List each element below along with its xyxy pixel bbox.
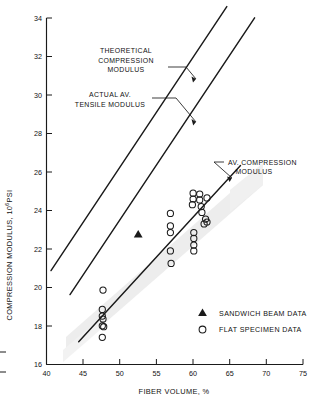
data-point	[100, 287, 106, 293]
data-point	[191, 248, 197, 254]
y-tick-label: 16	[34, 360, 42, 369]
chart-svg: 34 32 30 28 26 24 22 20 18 16 40 45 50 5…	[0, 0, 311, 402]
data-point	[167, 223, 173, 229]
x-tick-label: 75	[299, 369, 307, 378]
annotation-line: MODULUS	[236, 168, 273, 175]
data-point	[197, 191, 203, 197]
data-point	[167, 230, 173, 236]
annotation-line: TENSILE MODULUS	[75, 101, 145, 108]
y-tick-label: 34	[34, 14, 42, 23]
y-axis-title-main: COMPRESSION MODULUS, 10	[5, 206, 14, 321]
x-tick-label: 50	[116, 369, 124, 378]
annotation-line: THEORETICAL	[100, 47, 152, 54]
legend-marker-filled-triangle	[198, 308, 207, 316]
x-axis-ticks	[47, 359, 304, 365]
y-tick-label: 18	[34, 322, 42, 331]
x-axis-tick-labels: 40 45 50 55 60 65 70 75	[43, 369, 308, 378]
y-axis-title-unit: PSI	[5, 189, 14, 202]
annotation-line: COMPRESSION	[98, 57, 154, 64]
data-point	[199, 209, 205, 215]
y-tick-label: 32	[34, 52, 42, 61]
data-point	[190, 190, 196, 196]
x-tick-label: 40	[43, 369, 51, 378]
legend-label-flat-specimen-data: FLAT SPECIMEN DATA	[219, 326, 302, 334]
x-tick-label: 70	[262, 369, 270, 378]
y-tick-label: 28	[34, 129, 42, 138]
legend-label-sandwich-beam-data: SANDWICH BEAM DATA	[219, 310, 307, 318]
legend-marker-open-circle	[199, 326, 206, 333]
y-axis-ticks	[47, 18, 53, 365]
series-sandwich-beam-data	[134, 230, 143, 238]
y-axis-title: COMPRESSION MODULUS, 106PSI	[4, 189, 14, 320]
y-tick-label: 22	[34, 245, 42, 254]
annotation-line: AV. COMPRESSION	[228, 159, 297, 166]
annotation-line: MODULUS	[108, 66, 145, 73]
data-point	[99, 334, 105, 340]
x-tick-label: 65	[226, 369, 234, 378]
x-tick-label: 55	[152, 369, 160, 378]
annotation-arrowheads	[192, 77, 233, 183]
y-tick-label: 20	[34, 283, 42, 292]
data-point	[167, 210, 173, 216]
x-tick-label: 60	[189, 369, 197, 378]
y-axis-tick-labels: 34 32 30 28 26 24 22 20 18 16	[34, 14, 42, 370]
chart-legend: SANDWICH BEAM DATA FLAT SPECIMEN DATA	[198, 308, 307, 334]
data-point	[204, 195, 210, 201]
y-tick-label: 30	[34, 91, 42, 100]
annotation-line: ACTUAL AV.	[89, 91, 131, 98]
data-point	[134, 230, 143, 238]
x-tick-label: 45	[79, 369, 87, 378]
page-edge-marks	[0, 352, 6, 372]
annotation-actual-av-tensile-modulus: ACTUAL AV. TENSILE MODULUS	[75, 91, 145, 108]
x-axis-title: FIBER VOLUME, %	[139, 387, 210, 396]
data-point	[197, 197, 203, 203]
annotation-theoretical-compression-modulus: THEORETICAL COMPRESSION MODULUS	[98, 47, 154, 73]
svg-text:COMPRESSION MODULUS, 106PSI: COMPRESSION MODULUS, 106PSI	[4, 189, 14, 320]
y-tick-label: 24	[34, 206, 42, 215]
y-tick-label: 26	[34, 168, 42, 177]
chart-figure: 34 32 30 28 26 24 22 20 18 16 40 45 50 5…	[0, 0, 311, 402]
annotation-leaders	[152, 67, 232, 178]
